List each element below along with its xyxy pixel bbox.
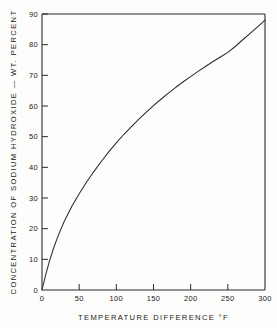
y-axis-title: CONCENTRATION OF SODIUM HYDROXIDE — WT. … bbox=[9, 10, 18, 295]
y-tick-label: 60 bbox=[29, 102, 38, 111]
x-tick-label: 0 bbox=[40, 294, 44, 303]
data-series-line bbox=[42, 20, 265, 290]
y-tick-label: 40 bbox=[29, 163, 38, 172]
y-tick-label: 10 bbox=[29, 255, 38, 264]
y-tick-label: 0 bbox=[34, 286, 38, 295]
x-tick-label: 300 bbox=[258, 294, 271, 303]
chart-canvas: 050100150200250300 0102030405060708090 T… bbox=[0, 0, 277, 328]
x-axis-ticks: 050100150200250300 bbox=[40, 284, 272, 303]
y-axis-ticks: 0102030405060708090 bbox=[29, 10, 48, 295]
y-tick-label: 20 bbox=[29, 224, 38, 233]
x-tick-label: 150 bbox=[147, 294, 160, 303]
x-axis-title: TEMPERATURE DIFFERENCE °F bbox=[78, 313, 229, 322]
y-tick-label: 50 bbox=[29, 132, 38, 141]
x-tick-label: 250 bbox=[221, 294, 234, 303]
x-tick-label: 50 bbox=[75, 294, 84, 303]
y-tick-label: 30 bbox=[29, 194, 38, 203]
y-tick-label: 90 bbox=[29, 10, 38, 19]
plot-frame bbox=[42, 14, 265, 290]
x-tick-label: 100 bbox=[110, 294, 123, 303]
y-tick-label: 70 bbox=[29, 71, 38, 80]
x-tick-label: 200 bbox=[184, 294, 197, 303]
chart-figure: 050100150200250300 0102030405060708090 T… bbox=[0, 0, 277, 328]
y-tick-label: 80 bbox=[29, 40, 38, 49]
